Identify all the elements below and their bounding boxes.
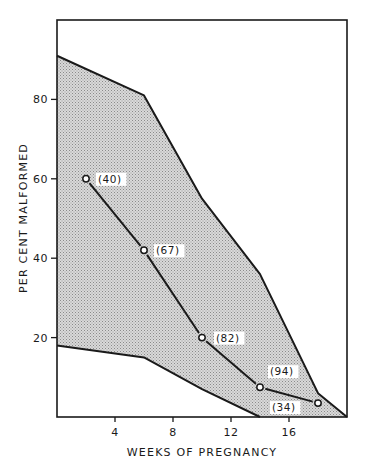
y-tick-label: 20 (33, 332, 48, 345)
svg-text:(40): (40) (98, 173, 122, 185)
point-label: (40) (96, 173, 126, 186)
y-tick-label: 40 (33, 252, 48, 265)
data-point-marker (141, 247, 147, 253)
shaded-range-band (57, 56, 347, 417)
y-tick-label: 80 (33, 93, 48, 106)
x-tick-label: 16 (282, 426, 297, 439)
svg-text:(94): (94) (270, 365, 294, 377)
x-tick-label: 4 (111, 426, 119, 439)
point-label: (34) (270, 401, 300, 414)
svg-text:(34): (34) (272, 401, 296, 413)
data-point-marker (199, 334, 205, 340)
data-point-marker (315, 400, 321, 406)
data-point-marker (257, 384, 263, 390)
x-tick-label: 8 (169, 426, 177, 439)
point-label: (67) (154, 244, 184, 257)
svg-text:(82): (82) (216, 332, 240, 344)
data-point-marker (83, 176, 89, 182)
chart: 48121620406080 (40)(67)(82)(94)(34) WEEK… (0, 0, 365, 468)
x-axis-title: WEEKS OF PREGNANCY (127, 446, 278, 459)
svg-text:(67): (67) (156, 244, 180, 256)
y-tick-label: 60 (33, 173, 48, 186)
point-label: (82) (214, 332, 244, 345)
point-label: (94) (268, 365, 298, 378)
x-tick-label: 12 (224, 426, 239, 439)
y-axis-title: PER CENT MALFORMED (17, 143, 30, 293)
